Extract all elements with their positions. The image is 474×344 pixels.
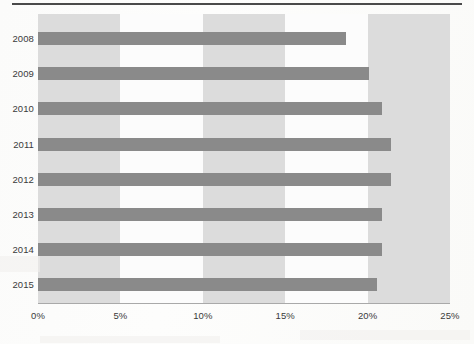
bar-row (38, 243, 450, 256)
y-axis-label-2010: 2010 (0, 103, 34, 114)
vertical-band (203, 14, 285, 303)
x-axis-label-15pct: 15% (265, 310, 305, 321)
plot-area (38, 14, 450, 303)
x-axis-label-25pct: 25% (430, 310, 470, 321)
y-axis-label-2015: 2015 (0, 279, 34, 290)
vertical-band (285, 14, 367, 303)
bar-2014 (38, 243, 382, 256)
bar-2009 (38, 67, 369, 80)
x-axis-label-10pct: 10% (183, 310, 223, 321)
bar-row (38, 67, 450, 80)
y-axis-label-2008: 2008 (0, 33, 34, 44)
x-axis-label-20pct: 20% (348, 310, 388, 321)
vertical-band (368, 14, 450, 303)
vertical-band (120, 14, 202, 303)
bar-2015 (38, 278, 377, 291)
y-axis-label-2014: 2014 (0, 244, 34, 255)
bar-row (38, 32, 450, 45)
y-axis-label-2011: 2011 (0, 139, 34, 150)
bar-2010 (38, 102, 382, 115)
horizontal-bar-chart: 20082009201020112012201320142015 0%5%10%… (0, 0, 474, 344)
x-axis-label-5pct: 5% (100, 310, 140, 321)
bar-row (38, 138, 450, 151)
bar-row (38, 173, 450, 186)
x-axis-line (38, 303, 450, 304)
y-axis-label-2009: 2009 (0, 68, 34, 79)
x-axis-label-0pct: 0% (18, 310, 58, 321)
bar-row (38, 278, 450, 291)
bar-2008 (38, 32, 346, 45)
bar-row (38, 208, 450, 221)
bar-2011 (38, 138, 391, 151)
vertical-band (38, 14, 120, 303)
bar-2012 (38, 173, 391, 186)
bar-2013 (38, 208, 382, 221)
bar-row (38, 102, 450, 115)
y-axis-label-2012: 2012 (0, 174, 34, 185)
y-axis-label-2013: 2013 (0, 209, 34, 220)
